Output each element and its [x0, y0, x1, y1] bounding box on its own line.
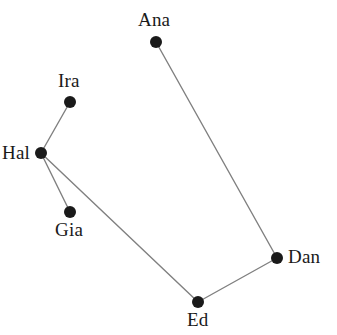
- node-label-hal: Hal: [2, 143, 30, 162]
- edge-ana-dan: [156, 42, 277, 258]
- edge-hal-gia: [41, 153, 70, 212]
- edge-ed-dan: [198, 258, 277, 302]
- node-label-ed: Ed: [187, 310, 209, 329]
- node-point-hal[interactable]: [35, 147, 47, 159]
- edge-ira-hal: [41, 102, 70, 153]
- node-point-ana[interactable]: [150, 36, 162, 48]
- node-label-gia: Gia: [55, 220, 83, 239]
- node-point-gia[interactable]: [64, 206, 76, 218]
- node-point-ed[interactable]: [192, 296, 204, 308]
- node-label-ana: Ana: [138, 10, 170, 29]
- node-point-dan[interactable]: [271, 252, 283, 264]
- graph-canvas: [0, 0, 337, 335]
- node-label-ira: Ira: [58, 71, 80, 90]
- node-label-dan: Dan: [288, 247, 320, 266]
- node-link-graph-figure: AnaIraHalGiaEdDan: [0, 0, 337, 335]
- node-point-ira[interactable]: [64, 96, 76, 108]
